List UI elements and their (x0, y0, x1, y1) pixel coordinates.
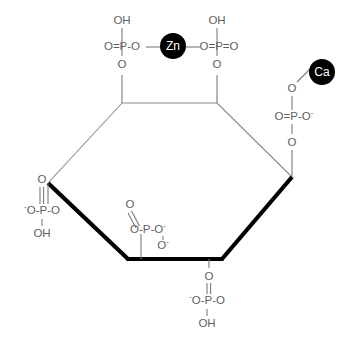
phosphate-top-right: OH O=P=O O (186, 14, 239, 103)
zinc-label: Zn (166, 39, 180, 53)
label-oh-top-left: OH (113, 14, 130, 26)
label-o-top-bottom-phosphate: O (205, 270, 214, 282)
label-o-bridge-top-left: O (118, 58, 127, 70)
label-core-bottom: -O-P-O (189, 292, 225, 306)
bond-right-phosphate-to-calcium (297, 68, 311, 82)
molecule-diagram: OH O=P-O O OH O=P=O O O O=P-O- O (0, 0, 339, 342)
label-oh-top-right: OH (208, 14, 225, 26)
label-o-bridge-top-right: O (213, 58, 222, 70)
label-oh-bottom-phosphate: OH (198, 317, 215, 329)
calcium-label: Ca (314, 65, 330, 79)
label-core-left: -O-P-O (24, 202, 60, 216)
label-o-upper-right-phosphate: O (288, 82, 297, 94)
ring-bond-c5-c6 (48, 183, 128, 259)
label-core-top-right: O=P=O (200, 40, 239, 52)
phosphate-bottom-left: O O-P-O- O- (126, 198, 170, 259)
inositol-ring (48, 103, 292, 259)
phosphate-bottom: O -O-P-O OH (189, 259, 225, 329)
phosphate-right: O O=P-O- O (275, 68, 314, 177)
ring-bond-c6-c1 (48, 103, 122, 183)
label-core-right: O=P-O- (275, 108, 314, 122)
label-core-bottom-left: O-P-O- (130, 221, 166, 235)
structure-canvas: OH O=P-O O OH O=P=O O O O=P-O- O (0, 0, 339, 342)
label-o-lower-right-phosphate: O (288, 136, 297, 148)
metal-zinc: Zn (160, 33, 186, 59)
label-oh-left-phosphate: OH (33, 227, 50, 239)
label-extra-o-bottom-left: O- (157, 237, 169, 251)
ring-bond-c3-c4 (222, 177, 292, 259)
phosphate-top-left: OH O=P-O O (104, 14, 160, 103)
metal-calcium: Ca (309, 59, 335, 85)
label-o-top-left-phosphate: O (38, 173, 47, 185)
label-o-top-bottom-left-phosphate: O (126, 198, 135, 210)
phosphate-left: O -O-P-O OH (24, 173, 60, 239)
label-core-top-left: O=P-O (104, 40, 140, 52)
